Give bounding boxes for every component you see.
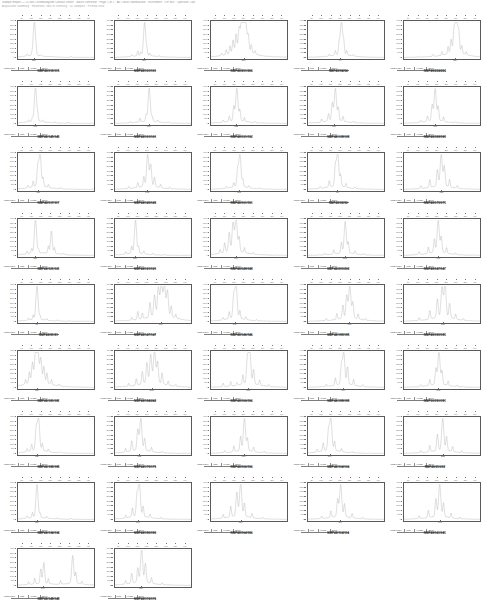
sample-id-label[interactable]: NMP48/114/114 — [293, 532, 384, 536]
chromatogram-panel[interactable]: 5010015020025030035040005001000150020002… — [97, 77, 194, 143]
chromatogram-panel[interactable]: 5010015020025030035040005001000150020002… — [0, 209, 97, 275]
plot-box[interactable] — [17, 284, 95, 324]
sample-id-label[interactable]: NMP48/145/145 — [3, 136, 94, 140]
chromatogram-panel[interactable]: 5010015020025030035040005001000150020002… — [0, 473, 97, 539]
sample-id-label[interactable]: NMP48/176/176 — [100, 598, 191, 602]
plot-box[interactable] — [210, 152, 288, 192]
plot-box[interactable] — [403, 152, 481, 192]
sample-id-label[interactable]: NMP48/185/185 — [389, 334, 480, 338]
sample-id-label[interactable]: NMP48/121/121 — [3, 268, 94, 272]
plot-box[interactable] — [403, 350, 481, 390]
plot-box[interactable] — [114, 20, 192, 60]
sample-id-label[interactable]: NMP48/146/146 — [196, 334, 287, 338]
chromatogram-panel[interactable]: 5010015020025030035040005001000150020002… — [193, 407, 290, 473]
chromatogram-panel[interactable]: 5010015020025030035040005001000150020002… — [386, 209, 483, 275]
sample-id-label[interactable]: NMP48/181/181 — [3, 400, 94, 404]
plot-box[interactable] — [307, 152, 385, 192]
plot-box[interactable] — [17, 152, 95, 192]
chromatogram-panel[interactable]: 5010015020025030035040005001000150020002… — [386, 143, 483, 209]
plot-box[interactable] — [210, 416, 288, 456]
plot-box[interactable] — [114, 218, 192, 258]
chromatogram-panel[interactable]: 5010015020025030035040005001000150020002… — [290, 143, 387, 209]
sample-id-label[interactable]: NMP48/189/189 — [389, 136, 480, 140]
plot-box[interactable] — [210, 350, 288, 390]
plot-box[interactable] — [307, 20, 385, 60]
plot-box[interactable] — [17, 20, 95, 60]
sample-id-label[interactable]: NMP48/141/141 — [389, 532, 480, 536]
sample-id-label[interactable]: NMP48/101/101 — [100, 136, 191, 140]
chromatogram-panel[interactable]: 5010015020025030035040005001000150020002… — [193, 143, 290, 209]
sample-id-label[interactable]: NMP48/147/147 — [389, 268, 480, 272]
chromatogram-panel[interactable]: 5010015020025030035040005001000150020002… — [290, 77, 387, 143]
chromatogram-panel[interactable]: 5010015020025030035040005001000150020002… — [193, 275, 290, 341]
chromatogram-panel[interactable]: 5010015020025030035040005001000150020002… — [193, 473, 290, 539]
sample-id-label[interactable]: NMP48/21/232 — [389, 466, 480, 470]
sample-id-label[interactable]: NMP48/164/166 — [196, 532, 287, 536]
chromatogram-panel[interactable]: 5010015020025030035040005001000150020002… — [290, 473, 387, 539]
chromatogram-panel[interactable]: 5010015020025030035040005001000150020002… — [97, 341, 194, 407]
plot-box[interactable] — [210, 20, 288, 60]
plot-box[interactable] — [210, 284, 288, 324]
chromatogram-panel[interactable]: 5010015020025030035040005001000150020002… — [193, 209, 290, 275]
chromatogram-panel[interactable]: 5010015020025030035040005001000150020002… — [386, 11, 483, 77]
sample-id-label[interactable]: NMP48/201/202 — [293, 268, 384, 272]
sample-id-label[interactable]: NMP48/149/149 — [196, 268, 287, 272]
sample-id-label[interactable]: NMP48/194/242 — [100, 400, 191, 404]
sample-id-label[interactable]: NMP48/131/132 — [196, 136, 287, 140]
plot-box[interactable] — [114, 416, 192, 456]
chromatogram-panel[interactable]: 5010015020025030035040005001000150020002… — [193, 341, 290, 407]
chromatogram-panel[interactable]: 5010015020025030035040005001000150020002… — [386, 341, 483, 407]
plot-box[interactable] — [403, 482, 481, 522]
chromatogram-panel[interactable]: 5010015020025030035040005001000150020002… — [0, 77, 97, 143]
plot-box[interactable] — [307, 416, 385, 456]
plot-box[interactable] — [17, 350, 95, 390]
plot-box[interactable] — [114, 482, 192, 522]
chromatogram-panel[interactable]: 5010015020025030035040005001000150020002… — [290, 341, 387, 407]
sample-id-label[interactable]: NMP48/106/106 — [196, 466, 287, 470]
plot-box[interactable] — [403, 218, 481, 258]
plot-box[interactable] — [114, 284, 192, 324]
sample-id-label[interactable]: NMP48/175/175 — [100, 466, 191, 470]
chromatogram-panel[interactable]: 5010015020025030035040005001000150020002… — [97, 539, 194, 605]
chromatogram-panel[interactable]: 5010015020025030035040005001000150020002… — [290, 275, 387, 341]
chromatogram-panel[interactable]: 5010015020025030035040005001000150020002… — [290, 209, 387, 275]
sample-id-label[interactable]: NMP48/199/199 — [293, 400, 384, 404]
chromatogram-panel[interactable]: 5010015020025030035040005001000150020002… — [97, 143, 194, 209]
sample-id-label[interactable]: NMP48/81/81 — [3, 334, 94, 338]
chromatogram-panel[interactable]: 5010015020025030035040005001000150020002… — [193, 77, 290, 143]
plot-box[interactable] — [210, 482, 288, 522]
sample-id-label[interactable]: NMP48/224/224 — [389, 70, 480, 74]
sample-id-label[interactable]: NMP48/185/185 — [3, 466, 94, 470]
chromatogram-panel[interactable]: 5010015020025030035040005001000150020002… — [0, 143, 97, 209]
sample-id-label[interactable]: NMP48/101/101 — [196, 202, 287, 206]
plot-box[interactable] — [17, 482, 95, 522]
sample-id-label[interactable]: NMP48/106/106 — [196, 400, 287, 404]
sample-id-label[interactable]: NMP48/92/92 — [293, 202, 384, 206]
chromatogram-panel[interactable]: 5010015020025030035040005001000150020002… — [386, 275, 483, 341]
sample-id-label[interactable]: NMP48/195/195 — [293, 334, 384, 338]
plot-box[interactable] — [307, 86, 385, 126]
sample-id-label[interactable]: NMP48/147/147 — [100, 334, 191, 338]
chromatogram-panel[interactable]: 5010015020025030035040005001000150020002… — [386, 77, 483, 143]
plot-box[interactable] — [114, 86, 192, 126]
plot-box[interactable] — [307, 218, 385, 258]
sample-id-label[interactable]: NMP48/134/134 — [3, 532, 94, 536]
sample-id-label[interactable]: NMP48/121/121 — [100, 268, 191, 272]
sample-id-label[interactable]: NMP48/201/206 — [196, 70, 287, 74]
sample-id-label[interactable]: NMP48/104/104 — [293, 466, 384, 470]
chromatogram-panel[interactable]: 5010015020025030035040005001000150020002… — [386, 407, 483, 473]
plot-box[interactable] — [114, 152, 192, 192]
plot-box[interactable] — [307, 482, 385, 522]
plot-box[interactable] — [210, 218, 288, 258]
chromatogram-panel[interactable]: 5010015020025030035040005001000150020002… — [290, 407, 387, 473]
sample-id-label[interactable]: NMP48/175/175 — [389, 202, 480, 206]
plot-box[interactable] — [114, 548, 192, 588]
chromatogram-panel[interactable]: 5010015020025030035040005001000150020002… — [0, 11, 97, 77]
plot-box[interactable] — [210, 86, 288, 126]
sample-id-label[interactable]: NMP48/117/117 — [3, 202, 94, 206]
sample-id-label[interactable]: NMP48/101/101 — [100, 70, 191, 74]
plot-box[interactable] — [307, 350, 385, 390]
plot-box[interactable] — [307, 284, 385, 324]
chromatogram-panel[interactable]: 5010015020025030035040005001000150020002… — [97, 11, 194, 77]
sample-id-label[interactable]: NMP48/139/139 — [293, 136, 384, 140]
